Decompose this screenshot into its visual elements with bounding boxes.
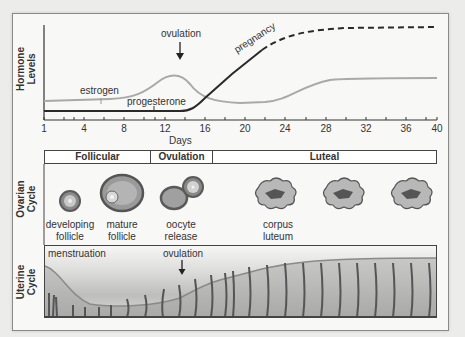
x-tick-12: 12 bbox=[159, 123, 170, 134]
ovulation-label: ovulation bbox=[161, 28, 201, 39]
uterine-ovulation-label: ovulation bbox=[163, 248, 203, 259]
phase-luteal: Luteal bbox=[212, 150, 437, 164]
caption-oocyte-release: oocyte release bbox=[165, 219, 198, 243]
developing-follicle-icon bbox=[60, 191, 80, 211]
x-tick-40: 40 bbox=[431, 123, 442, 134]
caption-mature-follicle: mature follicle bbox=[106, 219, 137, 243]
x-tick-16: 16 bbox=[199, 123, 210, 134]
x-tick-8: 8 bbox=[121, 123, 127, 134]
phase-ovulation: Ovulation bbox=[150, 150, 213, 164]
x-tick-32: 32 bbox=[360, 123, 371, 134]
progesterone-label: progesterone bbox=[127, 96, 186, 107]
menstruation-label: menstruation bbox=[48, 248, 106, 259]
x-tick-28: 28 bbox=[320, 123, 331, 134]
x-tick-1: 1 bbox=[41, 123, 47, 134]
mature-follicle-icon bbox=[101, 175, 143, 211]
oocyte-release-icon bbox=[161, 177, 203, 209]
caption-corpus-luteum: corpus luteum bbox=[263, 219, 293, 243]
corpus-luteum-icon-3 bbox=[392, 178, 433, 209]
x-tick-4: 4 bbox=[81, 123, 87, 134]
phase-follicular: Follicular bbox=[44, 150, 151, 164]
pregnancy-curve bbox=[262, 27, 437, 50]
x-tick-24: 24 bbox=[279, 123, 290, 134]
x-tick-20: 20 bbox=[239, 123, 250, 134]
x-tick-36: 36 bbox=[400, 123, 411, 134]
x-axis-title: Days bbox=[169, 135, 192, 146]
caption-developing-follicle: developing follicle bbox=[46, 219, 94, 243]
ovulation-arrowhead bbox=[176, 53, 184, 60]
corpus-luteum-icon bbox=[256, 178, 297, 209]
corpus-luteum-icon-2 bbox=[324, 178, 365, 209]
estrogen-label: estrogen bbox=[80, 85, 119, 96]
